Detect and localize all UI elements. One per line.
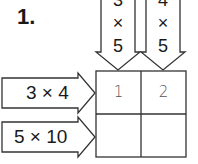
column-2-op: × bbox=[146, 13, 180, 33]
grid-cell-1-1[interactable]: 1 bbox=[96, 71, 141, 114]
grid-cell-2-1[interactable] bbox=[96, 114, 141, 157]
row-1-label: 3 × 4 bbox=[26, 83, 69, 103]
column-1-bottom: 5 bbox=[101, 36, 135, 56]
down-arrow-col-1 bbox=[96, 0, 140, 70]
grid-cell-1-2[interactable]: 2 bbox=[141, 71, 186, 114]
grid-cell-2-2[interactable] bbox=[141, 114, 186, 157]
column-2-top: 4 bbox=[146, 0, 180, 10]
column-2-bottom: 5 bbox=[146, 36, 180, 56]
down-arrow-col-2 bbox=[141, 0, 185, 70]
row-2-label: 5 × 10 bbox=[14, 127, 67, 147]
column-1-top: 3 bbox=[101, 0, 135, 10]
column-1-op: × bbox=[101, 13, 135, 33]
